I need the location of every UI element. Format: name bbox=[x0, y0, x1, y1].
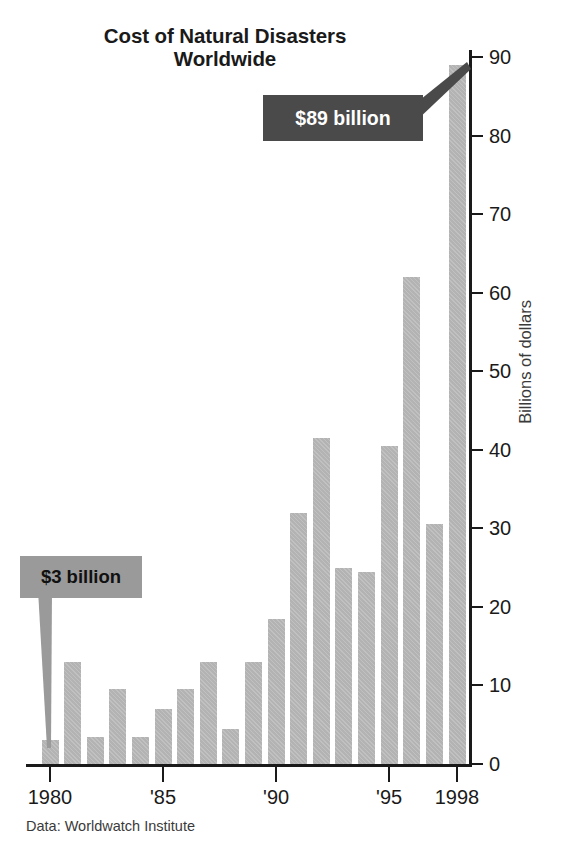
bar bbox=[449, 65, 466, 764]
bar bbox=[109, 689, 126, 764]
y-axis-tick bbox=[472, 135, 483, 137]
source-note: Data: Worldwatch Institute bbox=[26, 818, 195, 834]
bar bbox=[200, 662, 217, 764]
x-axis-tick bbox=[388, 767, 390, 782]
y-axis-tick-label: 70 bbox=[489, 204, 511, 224]
bar bbox=[245, 662, 262, 764]
x-axis-tick-label: 1998 bbox=[435, 787, 480, 807]
x-axis-tick bbox=[456, 767, 458, 782]
x-axis-tick-label: 1980 bbox=[28, 787, 73, 807]
chart-figure: Cost of Natural Disasters Worldwide 0102… bbox=[0, 0, 561, 854]
y-axis-tick-label: 90 bbox=[489, 47, 511, 67]
y-axis-tick-label: 0 bbox=[489, 754, 500, 774]
x-axis-tick-label: '90 bbox=[263, 787, 289, 807]
bar bbox=[290, 513, 307, 764]
y-axis-tick-label: 20 bbox=[489, 597, 511, 617]
y-axis-tick-label: 40 bbox=[489, 440, 511, 460]
bar bbox=[426, 524, 443, 764]
y-axis-tick bbox=[472, 213, 483, 215]
y-axis-tick-label: 50 bbox=[489, 361, 511, 381]
x-axis-tick bbox=[49, 767, 51, 782]
annotation-label-low: $3 billion bbox=[20, 556, 142, 598]
y-axis-tick-label: 60 bbox=[489, 283, 511, 303]
bar bbox=[87, 737, 104, 764]
y-axis-tick bbox=[472, 449, 483, 451]
y-axis-tick bbox=[472, 370, 483, 372]
x-axis-tick-label: '95 bbox=[376, 787, 402, 807]
bar bbox=[132, 737, 149, 764]
y-axis-tick-label: 30 bbox=[489, 518, 511, 538]
y-axis-title: Billions of dollars bbox=[516, 300, 535, 424]
bar bbox=[313, 438, 330, 764]
bar bbox=[381, 446, 398, 764]
y-axis-tick-label: 80 bbox=[489, 126, 511, 146]
bar bbox=[155, 709, 172, 764]
bar bbox=[403, 277, 420, 764]
x-axis-tick bbox=[275, 767, 277, 782]
y-axis-tick-label: 10 bbox=[489, 675, 511, 695]
bar bbox=[222, 729, 239, 764]
x-axis-line bbox=[26, 764, 472, 767]
y-axis-tick bbox=[472, 684, 483, 686]
y-axis-tick bbox=[472, 763, 483, 765]
x-axis-tick-label: '85 bbox=[150, 787, 176, 807]
y-axis-tick bbox=[472, 292, 483, 294]
y-axis-tick bbox=[472, 606, 483, 608]
bar bbox=[268, 619, 285, 764]
y-axis-tick bbox=[472, 56, 483, 58]
bar bbox=[335, 568, 352, 764]
bar bbox=[358, 572, 375, 764]
x-axis-tick bbox=[162, 767, 164, 782]
plot-area: 0102030405060708090 1980'85'90'951998 Bi… bbox=[0, 0, 561, 854]
annotation-label-high: $89 billion bbox=[263, 95, 423, 141]
callout-pointer-icon bbox=[30, 590, 80, 750]
y-axis-tick bbox=[472, 527, 483, 529]
y-axis-line bbox=[469, 50, 472, 767]
bar bbox=[177, 689, 194, 764]
